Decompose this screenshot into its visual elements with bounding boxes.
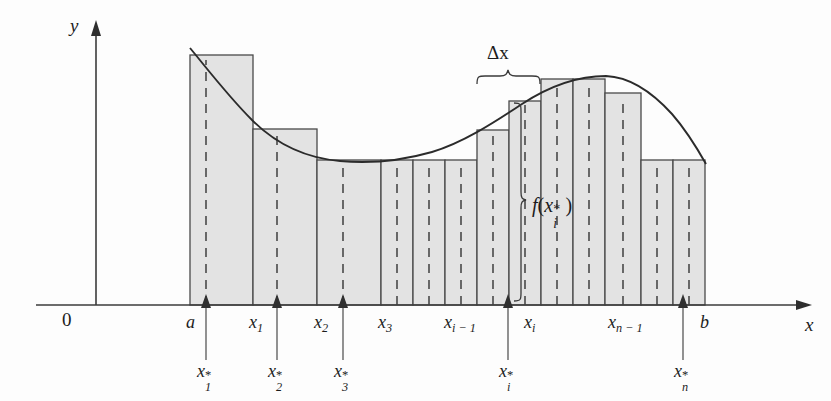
sample-label-x1-star: x*1 — [197, 362, 216, 380]
partition-label-x2: x2 — [314, 313, 328, 334]
partition-label-a: a — [186, 313, 195, 331]
riemann-diagram-canvas — [0, 0, 831, 401]
tick-arrow-xistar — [503, 294, 513, 360]
riemann-sum-figure: y x 0 Δx f(x*i) a x1 x2 x3 xi − 1 xi xn … — [0, 0, 831, 401]
tick-arrow-x1star — [201, 294, 211, 360]
partition-label-xi: xi — [524, 313, 535, 334]
x-axis-arrow — [796, 300, 812, 310]
tick-arrow-xnstar — [678, 294, 688, 360]
delta-x-brace — [477, 70, 540, 84]
partition-label-b: b — [700, 313, 709, 331]
origin-label: 0 — [62, 310, 72, 329]
tick-arrow-x3star — [338, 294, 348, 360]
y-axis-arrow — [91, 20, 101, 36]
sample-label-xi-star: x*i — [499, 362, 518, 380]
f-of-x-star-label: f(x*i) — [532, 195, 572, 215]
partition-label-x3: x3 — [378, 313, 392, 334]
tick-arrow-x2star — [272, 294, 282, 360]
rect-bar — [190, 55, 253, 305]
partition-label-x1: x1 — [249, 313, 263, 334]
y-axis-group — [91, 20, 101, 305]
delta-x-brace-path — [477, 70, 540, 84]
sample-label-x2-star: x*2 — [268, 362, 287, 380]
rect-bar — [317, 160, 381, 305]
partition-label-xn-1: xn − 1 — [608, 313, 643, 334]
sample-label-x3-star: x*3 — [334, 362, 353, 380]
y-axis-label: y — [70, 16, 78, 35]
rectangles-group — [190, 55, 705, 305]
sample-label-xn-star: x*n — [674, 362, 693, 380]
delta-x-label: Δx — [487, 43, 509, 62]
partition-label-xi-1: xi − 1 — [444, 313, 476, 334]
x-axis-label: x — [805, 315, 813, 334]
